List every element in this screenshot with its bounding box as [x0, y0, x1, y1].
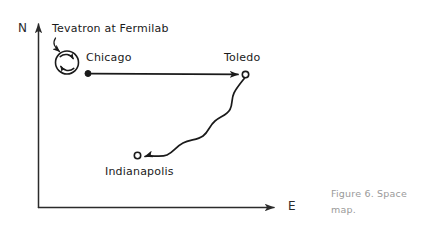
path-chicago-to-toledo [92, 74, 239, 75]
tevatron-annotation-label: Tevatron at Fermilab [52, 23, 169, 34]
city-label-indianapolis: Indianapolis [105, 166, 174, 177]
tevatron-ring-icon [56, 51, 79, 74]
figure-caption: Figure 6. Space map. [331, 186, 421, 217]
axis-east-label: E [288, 200, 296, 212]
city-label-chicago: Chicago [86, 52, 132, 63]
chicago-marker [85, 71, 91, 77]
toledo-marker [242, 71, 248, 77]
tevatron-beam-arrow-upper [60, 54, 73, 58]
axis-north-label: N [18, 22, 27, 34]
indianapolis-marker [134, 152, 140, 158]
space-map-figure: N E Tevatron at Fermilab Chicago Toledo … [0, 0, 426, 231]
city-label-toledo: Toledo [224, 52, 260, 63]
figure-caption-line-1: Figure 6. Space [331, 186, 421, 202]
figure-caption-line-2: map. [331, 202, 421, 218]
tevatron-beam-arrow-lower [61, 66, 74, 70]
tevatron-pointer-arrow [54, 38, 60, 52]
path-toledo-to-indianapolis [145, 78, 245, 156]
